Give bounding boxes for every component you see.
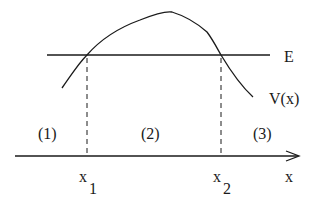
energy-label: E	[284, 48, 294, 65]
turning-point-sub-2: 2	[223, 180, 231, 197]
potential-label: V(x)	[269, 90, 299, 108]
region-label-2: (2)	[141, 125, 160, 143]
region-label-1: (1)	[38, 125, 57, 143]
turning-point-label-x1: x	[79, 168, 87, 185]
region-label-3: (3)	[253, 125, 272, 143]
potential-barrier-diagram: E V(x) (1) (2) (3) x 1 x 2 x	[0, 0, 318, 205]
turning-point-sub-1: 1	[89, 180, 97, 197]
x-axis-label: x	[285, 168, 293, 185]
turning-point-label-x2: x	[213, 168, 221, 185]
